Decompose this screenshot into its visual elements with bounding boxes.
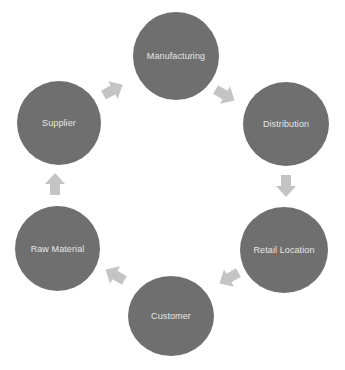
arrow-retail-to-customer-icon bbox=[214, 264, 243, 292]
node-distribution: Distribution bbox=[243, 82, 329, 166]
arrow-raw-material-to-supplier-icon bbox=[45, 173, 65, 195]
arrow-distribution-to-retail-icon bbox=[276, 175, 296, 197]
node-manufacturing: Manufacturing bbox=[133, 12, 219, 100]
node-customer: Customer bbox=[128, 276, 214, 356]
node-label: Supplier bbox=[42, 118, 76, 128]
arrow-customer-to-raw-material-icon bbox=[100, 261, 129, 289]
arrow-manufacturing-to-distribution-icon bbox=[210, 81, 239, 109]
node-label: Distribution bbox=[263, 119, 309, 129]
arrow-supplier-to-manufacturing-icon bbox=[99, 76, 128, 104]
node-label: Customer bbox=[151, 311, 191, 321]
node-label: Manufacturing bbox=[147, 51, 205, 61]
node-retail-location: Retail Location bbox=[240, 207, 328, 293]
node-supplier: Supplier bbox=[17, 81, 101, 165]
node-label: Raw Material bbox=[31, 244, 85, 254]
node-label: Retail Location bbox=[253, 245, 314, 255]
node-raw-material: Raw Material bbox=[15, 206, 100, 291]
